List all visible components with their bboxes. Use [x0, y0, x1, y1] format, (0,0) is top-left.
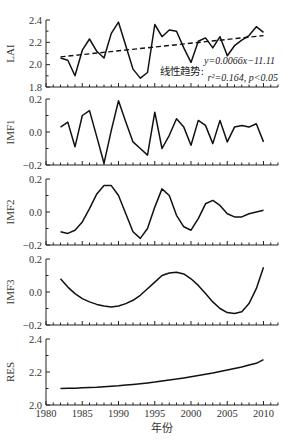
series-line-res — [61, 360, 264, 389]
y-tick-label: 0.2 — [29, 174, 42, 185]
x-tick-label: 1985 — [72, 408, 93, 419]
y-tick-label: 2.2 — [29, 37, 42, 48]
trend-stats: r²=0.164, p<0.05 — [208, 72, 278, 83]
panel-lai: 1.82.02.22.4LAIy=0.0066x−11.11线性趋势:r²=0.… — [4, 15, 278, 93]
y-tick-label: −0.2 — [23, 320, 42, 331]
panel-imf3: −0.20.00.2IMF3 — [4, 254, 278, 331]
x-tick-label: 1980 — [36, 408, 57, 419]
series-line-imf1 — [61, 101, 264, 164]
y-tick-label: 0.0 — [29, 207, 42, 218]
y-tick-label: 0.0 — [29, 127, 42, 138]
panel-imf2: −0.20.00.2IMF2 — [4, 174, 278, 251]
y-tick-label: 0.2 — [29, 94, 42, 105]
y-tick-label: 0.0 — [29, 287, 42, 298]
x-tick-label: 2000 — [181, 408, 202, 419]
y-axis-title: LAI — [4, 44, 16, 63]
series-line-imf2 — [61, 186, 264, 239]
y-tick-label: 0.2 — [29, 254, 42, 265]
trend-line — [61, 36, 264, 57]
panel-imf1: −0.20.00.2IMF1 — [4, 94, 278, 171]
emd-decomposition-chart: 1.82.02.22.4LAIy=0.0066x−11.11线性趋势:r²=0.… — [0, 0, 293, 448]
x-tick-label: 1990 — [108, 408, 129, 419]
x-tick-label: 1995 — [144, 408, 165, 419]
y-tick-label: 2.0 — [29, 59, 42, 70]
y-axis-title: RES — [4, 362, 16, 382]
y-tick-label: 1.8 — [29, 82, 42, 93]
y-axis-title: IMF1 — [4, 119, 16, 144]
y-axis-title: IMF2 — [4, 199, 16, 224]
panel-res: 2.02.22.4RES — [4, 334, 278, 411]
y-tick-label: 2.4 — [29, 334, 43, 345]
y-tick-label: 2.4 — [29, 15, 43, 26]
trend-equation: y=0.0066x−11.11 — [203, 55, 275, 66]
y-tick-label: −0.2 — [23, 160, 42, 171]
x-axis-title: 年份 — [151, 421, 173, 435]
trend-label: 线性趋势: — [160, 65, 204, 77]
x-tick-label: 2010 — [253, 408, 274, 419]
y-axis-title: IMF3 — [4, 279, 16, 305]
series-line-imf3 — [61, 267, 264, 313]
x-tick-label: 2005 — [217, 408, 238, 419]
y-tick-label: −0.2 — [23, 240, 42, 251]
y-tick-label: 2.2 — [29, 367, 42, 378]
